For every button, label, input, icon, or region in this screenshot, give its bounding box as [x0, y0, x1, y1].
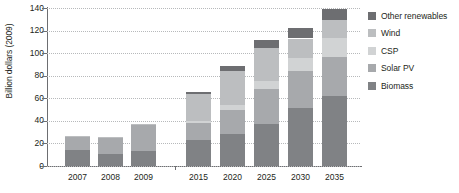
bar-segment-csp[interactable] [322, 38, 347, 56]
plot-area [47, 8, 360, 166]
bar-segment-other-renewables[interactable] [186, 92, 211, 94]
legend-item[interactable]: Other renewables [368, 7, 459, 25]
stacked-bar-chart: Billion dollars (2009) 02040608010012014… [0, 0, 459, 193]
bar-segment-biomass[interactable] [220, 134, 245, 166]
bar-segment-other-renewables[interactable] [254, 40, 279, 48]
bar-segment-solar-pv[interactable] [220, 110, 245, 135]
bar-segment-other-renewables[interactable] [220, 66, 245, 72]
bar-segment-solar-pv[interactable] [186, 123, 211, 140]
bar-segment-biomass[interactable] [65, 150, 90, 166]
x-tick-label: 2035 [316, 172, 353, 182]
bar-segment-wind[interactable] [288, 39, 313, 58]
bar-group[interactable] [220, 8, 245, 166]
y-axis-title: Billion dollars (2009) [4, 1, 14, 121]
bar-segment-solar-pv[interactable] [254, 89, 279, 124]
legend-label: CSP [381, 46, 398, 56]
bar-segment-solar-pv[interactable] [65, 137, 90, 151]
bar-segment-wind[interactable] [98, 137, 123, 138]
y-tick-label: 120 [20, 25, 44, 35]
bar-segment-biomass[interactable] [322, 96, 347, 166]
bar-segment-other-renewables[interactable] [322, 9, 347, 20]
bar-segment-biomass[interactable] [186, 140, 211, 166]
legend-item[interactable]: Solar PV [368, 60, 459, 78]
legend-swatch-icon [368, 82, 376, 90]
bar-segment-solar-pv[interactable] [131, 125, 156, 151]
x-tick-label: 2009 [125, 172, 162, 182]
bar-segment-wind[interactable] [254, 48, 279, 82]
legend-swatch-icon [368, 12, 376, 20]
y-tick-label: 0 [20, 161, 44, 171]
legend-label: Biomass [381, 81, 413, 91]
bar-group[interactable] [98, 8, 123, 166]
bar-segment-solar-pv[interactable] [322, 57, 347, 97]
x-tick-label: 2008 [92, 172, 129, 182]
gridline [47, 166, 360, 167]
bar-segment-csp[interactable] [288, 58, 313, 72]
bar-group[interactable] [254, 8, 279, 166]
x-tick-label: 2007 [59, 172, 96, 182]
bar-group[interactable] [186, 8, 211, 166]
bar-segment-csp[interactable] [220, 105, 245, 110]
bar-segment-wind[interactable] [322, 20, 347, 38]
bar-segment-wind[interactable] [186, 94, 211, 121]
bar-segment-solar-pv[interactable] [98, 138, 123, 154]
x-axis-break-tick [175, 166, 176, 170]
y-tick-label: 60 [20, 93, 44, 103]
bar-segment-biomass[interactable] [288, 108, 313, 166]
bar-segment-biomass[interactable] [98, 154, 123, 166]
chart-legend: Other renewablesWindCSPSolar PVBiomass [368, 7, 459, 95]
bar-segment-biomass[interactable] [254, 124, 279, 166]
bar-segment-solar-pv[interactable] [288, 71, 313, 108]
bar-group[interactable] [131, 8, 156, 166]
legend-item[interactable]: Wind [368, 25, 459, 43]
legend-swatch-icon [368, 29, 376, 37]
bar-group[interactable] [288, 8, 313, 166]
bar-segment-wind[interactable] [220, 71, 245, 105]
legend-swatch-icon [368, 47, 376, 55]
legend-item[interactable]: Biomass [368, 77, 459, 95]
x-tick-label: 2030 [282, 172, 319, 182]
legend-label: Solar PV [381, 63, 414, 73]
legend-label: Wind [381, 28, 400, 38]
y-tick-label: 140 [20, 3, 44, 13]
y-tick-label: 80 [20, 70, 44, 80]
y-tick-label: 20 [20, 138, 44, 148]
x-tick-label: 2020 [214, 172, 251, 182]
x-tick-label: 2015 [180, 172, 217, 182]
y-tick-label: 40 [20, 115, 44, 125]
bar-series-container [47, 8, 360, 166]
bar-segment-csp[interactable] [186, 121, 211, 123]
bar-group[interactable] [322, 8, 347, 166]
bar-segment-wind[interactable] [65, 136, 90, 137]
bar-segment-biomass[interactable] [131, 151, 156, 166]
legend-label: Other renewables [381, 11, 447, 21]
bar-segment-other-renewables[interactable] [288, 28, 313, 38]
y-tick-label: 100 [20, 48, 44, 58]
legend-swatch-icon [368, 64, 376, 72]
bar-segment-wind[interactable] [131, 124, 156, 125]
bar-segment-csp[interactable] [254, 81, 279, 89]
legend-item[interactable]: CSP [368, 42, 459, 60]
x-tick-label: 2025 [248, 172, 285, 182]
bar-group[interactable] [65, 8, 90, 166]
